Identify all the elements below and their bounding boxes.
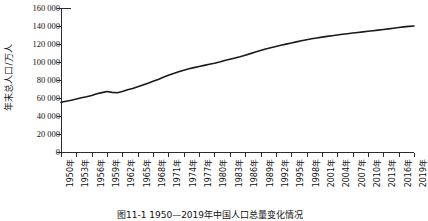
x-axis-tick-mark [399, 153, 400, 157]
x-axis-tick-label: 2013年 [386, 159, 397, 187]
x-axis-tick-label: 1980年 [217, 159, 228, 187]
y-axis-tick-mark [57, 44, 61, 45]
x-axis-tick-label: 1995年 [294, 159, 305, 187]
x-axis-tick-mark [322, 153, 323, 157]
x-axis-tick-mark [76, 153, 77, 157]
x-axis-tick-mark [368, 153, 369, 157]
x-axis-tick-mark [383, 153, 384, 157]
x-axis-tick-label: 2001年 [325, 159, 336, 187]
y-axis-tick-mark [57, 62, 61, 63]
x-axis-tick-mark [168, 153, 169, 157]
x-axis-tick-label: 2010年 [371, 159, 382, 187]
x-axis-tick-label: 2007年 [356, 159, 367, 187]
x-axis-tick-mark [337, 153, 338, 157]
x-axis-tick-mark [230, 153, 231, 157]
y-axis-tick-mark [57, 80, 61, 81]
plot-area [61, 8, 414, 152]
x-axis-tick-label: 1989年 [264, 159, 275, 187]
x-axis-tick-mark [214, 153, 215, 157]
y-axis-tick-labels: 020 00040 00060 00080 000100 000120 0001… [16, 0, 60, 155]
y-axis-title-wrap: 年末总人口/万人 [0, 0, 17, 155]
x-axis-tick-mark [276, 153, 277, 157]
population-line-path [61, 26, 414, 102]
x-axis-tick-mark [92, 153, 93, 157]
y-axis-tick-mark [57, 8, 61, 9]
x-axis-tick-label: 1950年 [64, 159, 75, 187]
x-axis-tick-label: 2004年 [340, 159, 351, 187]
x-axis-tick-mark [61, 153, 62, 157]
x-axis-tick-label: 2019年 [417, 159, 428, 187]
x-axis-tick-labels: 1950年1953年1956年1959年1962年1965年1968年1971年… [61, 153, 414, 213]
x-axis-tick-label: 1992年 [279, 159, 290, 187]
x-axis-tick-label: 1968年 [156, 159, 167, 187]
x-axis-tick-mark [307, 153, 308, 157]
x-axis-tick-label: 1962年 [125, 159, 136, 187]
x-axis-tick-mark [353, 153, 354, 157]
y-axis-title: 年末总人口/万人 [2, 44, 15, 110]
x-axis-tick-label: 1956年 [95, 159, 106, 187]
x-axis-tick-label: 1959年 [110, 159, 121, 187]
y-axis-tick-label: 100 000 [32, 57, 60, 67]
x-axis-tick-mark [199, 153, 200, 157]
x-axis-tick-label: 1998年 [310, 159, 321, 187]
y-axis-tick-mark [57, 134, 61, 135]
figure-caption: 图11-1 1950—2019年中国人口总量变化情况 [0, 208, 420, 221]
x-axis-tick-mark [153, 153, 154, 157]
x-axis-tick-label: 1983年 [233, 159, 244, 187]
x-axis-tick-mark [414, 153, 415, 157]
x-axis-tick-label: 2016年 [402, 159, 413, 187]
x-axis-tick-mark [245, 153, 246, 157]
population-line-series [61, 8, 414, 152]
y-axis-tick-mark [57, 116, 61, 117]
y-axis-tick-mark [57, 26, 61, 27]
x-axis-tick-mark [291, 153, 292, 157]
y-axis-tick-label: 120 000 [32, 39, 60, 49]
x-axis-tick-label: 1965年 [141, 159, 152, 187]
y-axis-tick-label: 160 000 [32, 3, 60, 13]
x-axis-tick-label: 1977年 [202, 159, 213, 187]
y-axis-tick-mark [57, 98, 61, 99]
x-axis-tick-label: 1971年 [171, 159, 182, 187]
x-axis-tick-label: 1974年 [187, 159, 198, 187]
x-axis-tick-mark [107, 153, 108, 157]
x-axis-tick-label: 1986年 [248, 159, 259, 187]
x-axis-tick-mark [122, 153, 123, 157]
x-axis-tick-mark [138, 153, 139, 157]
x-axis-tick-label: 1953年 [79, 159, 90, 187]
y-axis-tick-mark [57, 152, 61, 153]
y-axis-tick-label: 140 000 [32, 21, 60, 31]
x-axis-tick-mark [261, 153, 262, 157]
x-axis-tick-mark [184, 153, 185, 157]
